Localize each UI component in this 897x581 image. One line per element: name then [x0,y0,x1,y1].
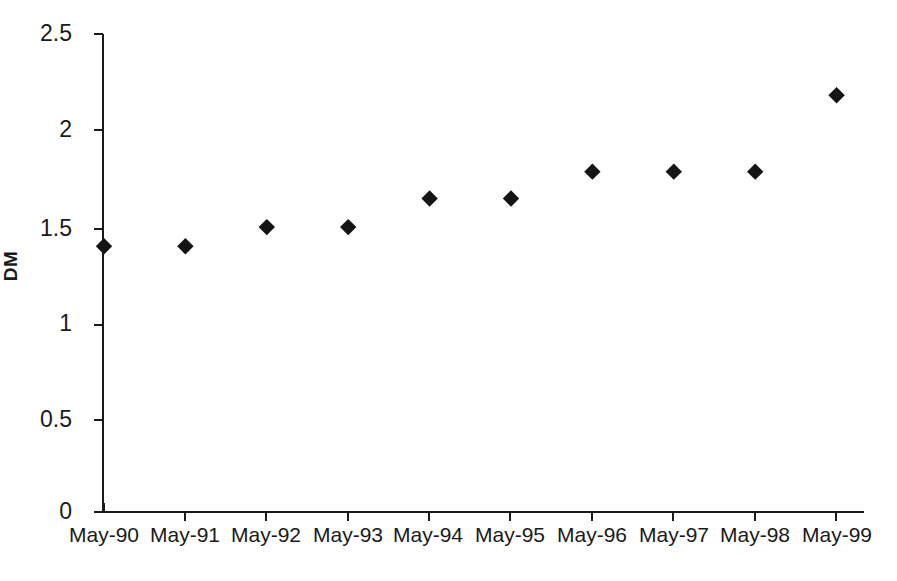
plot-area [0,0,897,581]
data-point [259,219,275,235]
scatter-chart: DM 2.5 2 1.5 1 0.5 0 May-90 May-91 May-9… [0,0,897,581]
data-point [340,219,356,235]
data-point [666,163,682,179]
data-point [421,190,437,206]
data-point [96,238,112,254]
data-point-group [96,87,845,254]
data-point [584,163,600,179]
data-point [177,238,193,254]
data-point [503,190,519,206]
data-point [828,87,844,103]
data-point [747,163,763,179]
y-axis-ticks [94,34,103,512]
